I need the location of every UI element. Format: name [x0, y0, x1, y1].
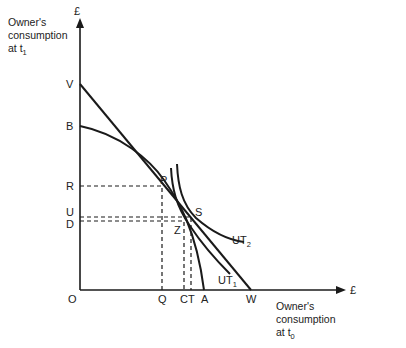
- x-axis-unit: £: [350, 284, 356, 296]
- y-axis-arrow-icon: [76, 18, 84, 28]
- label-V: V: [66, 78, 74, 90]
- label-W: W: [246, 293, 257, 305]
- x-axis-title-line2: consumption: [276, 313, 336, 325]
- label-UT1: UT1: [218, 274, 237, 289]
- label-T: T: [188, 293, 195, 305]
- y-axis-unit: £: [74, 5, 80, 17]
- label-origin-O: O: [68, 293, 77, 305]
- point-S: S: [195, 206, 202, 218]
- production-curve-BA: [80, 126, 204, 290]
- x-axis-title-line3: at t0: [276, 326, 295, 341]
- investment-diagram: £ Owner's consumption at t1 V B R U D P …: [0, 0, 406, 348]
- y-axis-title-line3: at t1: [8, 42, 27, 57]
- x-axis-title-line1: Owner's: [276, 300, 314, 312]
- label-C: C: [180, 293, 188, 305]
- y-axis-title-line1: Owner's: [8, 16, 46, 28]
- projection-D-Z-C: [80, 221, 184, 290]
- point-P: P: [160, 174, 167, 186]
- label-U: U: [66, 206, 74, 218]
- market-line-VW: [80, 84, 251, 290]
- y-axis-title-line2: consumption: [8, 29, 68, 41]
- projection-R-P-Q: [80, 186, 162, 290]
- label-UT2: UT2: [232, 234, 251, 249]
- label-Q: Q: [158, 293, 167, 305]
- label-B: B: [66, 120, 73, 132]
- label-A: A: [201, 293, 209, 305]
- point-Z: Z: [174, 224, 181, 236]
- indifference-curve-UT2: [177, 164, 244, 242]
- label-R: R: [66, 180, 74, 192]
- label-D: D: [66, 218, 74, 230]
- x-axis-arrow-icon: [336, 286, 346, 294]
